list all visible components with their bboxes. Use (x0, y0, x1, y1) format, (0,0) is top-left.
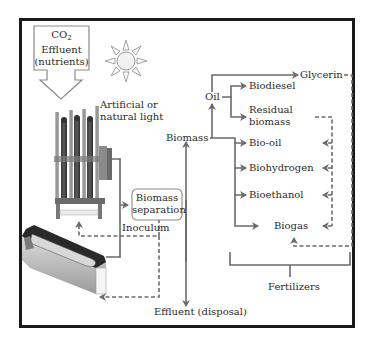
nutrients-label: (nutrients) (34, 56, 89, 68)
light-label-line2: natural light (100, 111, 163, 123)
effluent-disposal-label: Effluent (disposal) (154, 306, 247, 318)
fertilizers-label: Fertilizers (268, 281, 320, 293)
fertilizers-bracket (230, 252, 350, 277)
biogas-label: Biogas (274, 220, 308, 232)
bioethanol-label: Bioethanol (249, 189, 304, 201)
co2-subscript: 2 (67, 34, 71, 42)
biomass-label: Biomass (166, 132, 208, 144)
effluent-label: Effluent (34, 44, 89, 56)
sun-icon (105, 40, 147, 82)
separation-line2: separation (132, 204, 182, 216)
residual-biomass-label: Residual biomass (249, 104, 293, 128)
light-label-line1: Artificial or (100, 99, 163, 111)
co2-effluent-label: CO2 Effluent (nutrients) (34, 29, 89, 68)
biomass-separation-label: Biomass separation (132, 192, 182, 216)
biodiesel-label: Biodiesel (249, 80, 295, 92)
residual-line2: biomass (249, 116, 293, 128)
light-label: Artificial or natural light (100, 99, 163, 123)
oil-label: Oil (205, 91, 220, 103)
biohydrogen-label: Biohydrogen (249, 162, 314, 174)
raceway-pond-icon (22, 225, 106, 294)
inoculum-label: Inoculum (122, 222, 170, 234)
co2-label: CO (51, 29, 67, 40)
separation-line1: Biomass (132, 192, 182, 204)
glycerin-label: Glycerin (300, 69, 343, 81)
bio-oil-label: Bio-oil (249, 137, 281, 149)
residual-line1: Residual (249, 104, 293, 116)
